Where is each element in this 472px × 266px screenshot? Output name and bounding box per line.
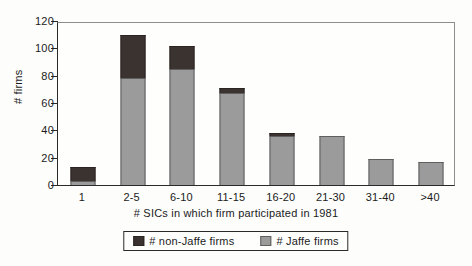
x-axis-tick-label: >40 [420, 191, 439, 203]
stacked-bar[interactable] [70, 167, 95, 185]
dark-swatch-icon [133, 236, 144, 246]
chart-canvas: # firms 020406080100120 12-56-1011-1516-… [0, 0, 472, 266]
bar-segment-non-jaffe[interactable] [120, 35, 145, 79]
y-axis-tick-label: 0 [48, 179, 54, 191]
y-axis-tick-label: 60 [41, 97, 54, 109]
bar-segment-non-jaffe[interactable] [170, 46, 195, 69]
gray-swatch-icon [260, 236, 271, 246]
x-axis-tick-label: 1 [79, 191, 85, 203]
x-axis-tick-label: 6-10 [170, 191, 193, 203]
x-axis-tick-label: 21-30 [316, 191, 345, 203]
y-axis-tick-label: 40 [41, 124, 54, 136]
bar-segment-jaffe[interactable] [319, 136, 344, 185]
y-axis-tick-label: 120 [35, 15, 54, 27]
bar-segment-jaffe[interactable] [419, 162, 444, 185]
legend-item[interactable]: # non-Jaffe firms [133, 235, 234, 247]
bar-segment-non-jaffe[interactable] [70, 167, 95, 181]
stacked-bar[interactable] [220, 88, 245, 185]
y-axis-tick-label: 100 [35, 42, 54, 54]
legend-label: # Jaffe firms [276, 235, 338, 247]
y-axis-title: # firms [12, 70, 24, 104]
bar-slot [357, 23, 407, 185]
stacked-bar[interactable] [170, 46, 195, 185]
bar-segment-jaffe[interactable] [269, 136, 294, 185]
bar-slot [406, 23, 456, 185]
bar-segment-jaffe[interactable] [220, 93, 245, 185]
stacked-bar[interactable] [269, 133, 294, 185]
bar-segment-jaffe[interactable] [170, 69, 195, 185]
y-axis-tick-label: 80 [41, 70, 54, 82]
bar-slot [108, 23, 158, 185]
bar-slot [307, 23, 357, 185]
bar-segment-jaffe[interactable] [120, 78, 145, 185]
stacked-bar[interactable] [369, 159, 394, 185]
stacked-bar[interactable] [319, 136, 344, 185]
x-axis-tick-label: 11-15 [217, 191, 245, 203]
plot-area: 020406080100120 [57, 22, 455, 186]
bar-slot [257, 23, 307, 185]
chart-legend: # non-Jaffe firms# Jaffe firms [123, 231, 348, 251]
bar-slot [207, 23, 257, 185]
bar-slot [58, 23, 108, 185]
bar-slot [158, 23, 208, 185]
y-axis-tick-label: 20 [41, 152, 54, 164]
stacked-bar[interactable] [419, 162, 444, 185]
x-axis-tick-label: 16-20 [266, 191, 295, 203]
x-axis-title: # SICs in which firm participated in 198… [0, 207, 472, 219]
stacked-bar[interactable] [120, 35, 145, 185]
x-axis-tick-label: 31-40 [366, 191, 395, 203]
x-axis-tick-label: 2-5 [123, 191, 140, 203]
bar-segment-jaffe[interactable] [369, 159, 394, 185]
legend-item[interactable]: # Jaffe firms [260, 235, 338, 247]
bar-segment-jaffe[interactable] [70, 181, 95, 185]
legend-label: # non-Jaffe firms [149, 235, 234, 247]
